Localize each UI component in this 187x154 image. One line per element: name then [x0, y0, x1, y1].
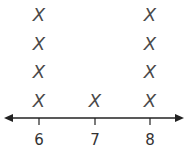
x-mark: X [143, 33, 157, 54]
x-mark: X [32, 4, 46, 25]
left-arrow-icon [4, 114, 13, 122]
line-plot: 678 XXXXXXXXX [0, 0, 187, 154]
x-mark: X [143, 4, 157, 25]
tick-label-6: 6 [34, 131, 44, 149]
x-mark: X [88, 90, 102, 111]
data-marks: XXXXXXXXX [32, 4, 157, 111]
tick-label-8: 8 [145, 131, 155, 149]
number-line-axis [4, 114, 184, 122]
axis-ticks: 678 [34, 118, 155, 149]
right-arrow-icon [175, 114, 184, 122]
x-mark: X [143, 61, 157, 82]
tick-label-7: 7 [90, 131, 100, 149]
x-mark: X [32, 90, 46, 111]
x-mark: X [32, 33, 46, 54]
x-mark: X [32, 61, 46, 82]
x-mark: X [143, 90, 157, 111]
